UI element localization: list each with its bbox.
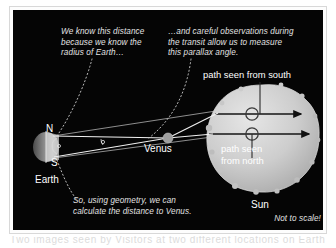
not-to-scale-note: Not to scale! bbox=[231, 214, 321, 225]
caption-strip-clipped: Two images seen by Visitors at two diffe… bbox=[10, 236, 326, 248]
sun-label: Sun bbox=[251, 199, 269, 210]
earth-south-label: S bbox=[51, 157, 58, 168]
note-bottom-geometry: So, using geometry, we can calculate the… bbox=[73, 196, 233, 217]
note-right-parallax: …and careful observations during the tra… bbox=[168, 27, 318, 59]
earth-north-label: N bbox=[46, 123, 53, 134]
venus-label: Venus bbox=[144, 143, 172, 154]
venus-transit-figure: We know this distance because we know th… bbox=[0, 0, 336, 248]
venus-disk bbox=[163, 133, 173, 143]
path-seen-from-north-label: path seen from north bbox=[221, 143, 264, 166]
caption-text: Two images seen by Visitors at two diffe… bbox=[10, 236, 326, 245]
sight-lines bbox=[53, 111, 218, 158]
earth-label: Earth bbox=[35, 174, 59, 185]
diagram-panel: We know this distance because we know th… bbox=[13, 10, 323, 230]
parallax-angle-marks bbox=[52, 138, 104, 154]
path-seen-from-south-label: path seen from south bbox=[203, 69, 291, 80]
leader-lines bbox=[57, 59, 191, 200]
sun-disk bbox=[206, 83, 321, 195]
note-left-distance: We know this distance because we know th… bbox=[61, 27, 179, 59]
